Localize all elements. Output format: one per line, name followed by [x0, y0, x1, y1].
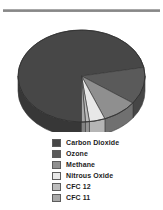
legend-label-cfc-12: CFC 12 [66, 182, 91, 191]
legend-label-ozone: Ozone [66, 149, 88, 158]
legend-item-nitrous-oxide[interactable]: Nitrous Oxide [52, 170, 157, 181]
legend-item-ozone[interactable]: Ozone [52, 148, 157, 159]
pie-chart-svg [0, 14, 163, 132]
legend-label-carbon-dioxide: Carbon Dioxide [66, 138, 119, 147]
pie-side-cfc-11 [82, 122, 86, 132]
legend-item-methane[interactable]: Methane [52, 159, 157, 170]
legend-item-carbon-dioxide[interactable]: Carbon Dioxide [52, 137, 157, 148]
legend-label-cfc-11: CFC 11 [66, 193, 90, 202]
legend-swatch-nitrous-oxide [52, 172, 61, 180]
legend-swatch-carbon-dioxide [52, 139, 61, 147]
legend-swatch-cfc-12 [52, 183, 61, 191]
legend-label-methane: Methane [66, 160, 95, 169]
legend-item-cfc-11[interactable]: CFC 11 [52, 192, 157, 203]
legend-item-cfc-12[interactable]: CFC 12 [52, 181, 157, 192]
legend-swatch-ozone [52, 150, 61, 158]
legend-label-nitrous-oxide: Nitrous Oxide [66, 171, 113, 180]
top-divider-rule [3, 9, 160, 12]
chart-page: Carbon Dioxide Ozone Methane Nitrous Oxi… [0, 0, 163, 210]
chart-legend: Carbon Dioxide Ozone Methane Nitrous Oxi… [52, 137, 157, 203]
legend-swatch-cfc-11 [52, 194, 61, 202]
pie-root [18, 30, 145, 132]
legend-swatch-methane [52, 161, 61, 169]
pie-chart-area [0, 14, 163, 132]
pie-top-faces [18, 30, 145, 122]
pie-side-cfc-12 [85, 122, 89, 132]
